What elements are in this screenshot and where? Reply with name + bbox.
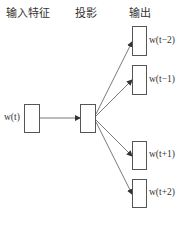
- output-node-4: [132, 179, 147, 208]
- arrow-to-output-3: [96, 120, 132, 156]
- output-node-1: [132, 26, 147, 56]
- arrow-to-output-2: [96, 80, 132, 116]
- output-node-3: [132, 141, 147, 170]
- input-node-label: w(t): [4, 112, 20, 122]
- output-node-4-label: w(t+2): [149, 187, 175, 197]
- output-node-3-label: w(t+1): [149, 149, 175, 159]
- arrow-to-output-4: [96, 122, 132, 194]
- projection-node: [80, 104, 96, 133]
- output-node-1-label: w(t−2): [149, 35, 175, 45]
- arrow-to-output-1: [96, 42, 132, 114]
- input-node: [24, 104, 40, 133]
- output-node-2: [132, 65, 147, 95]
- output-node-2-label: w(t−1): [149, 74, 175, 84]
